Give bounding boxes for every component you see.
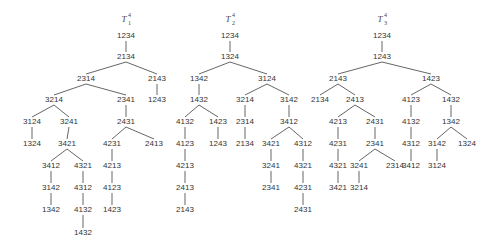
- tree-node: 4231: [329, 139, 347, 148]
- tree-node: 4312: [294, 139, 312, 148]
- tree-title-letter: T: [225, 14, 231, 24]
- tree-node: 2413: [145, 139, 163, 148]
- tree-node: 3142: [280, 95, 298, 104]
- tree-node: 2314: [77, 74, 95, 83]
- tree-node: 3421: [58, 139, 76, 148]
- tree-node: 4213: [329, 117, 347, 126]
- tree-node: 3241: [350, 161, 368, 170]
- tree-node: 2314: [236, 117, 254, 126]
- tree-title-subscript: 2: [232, 20, 235, 26]
- tree-edge: [126, 127, 154, 139]
- tree-title-superscript: 4: [384, 12, 387, 18]
- tree-edge: [86, 62, 126, 74]
- tree-node: 4132: [176, 117, 194, 126]
- tree-node: 1342: [190, 74, 208, 83]
- tree-node: 1342: [42, 205, 60, 214]
- tree-edge: [411, 84, 431, 95]
- tree-node: 1324: [458, 139, 476, 148]
- tree-edge: [245, 84, 267, 95]
- tree-node: 2341: [262, 183, 280, 192]
- tree-node: 1243: [373, 52, 391, 61]
- tree-node: 1243: [148, 95, 166, 104]
- tree-node: 1324: [23, 139, 41, 148]
- tree-node: 4132: [402, 117, 420, 126]
- tree-edge: [338, 105, 355, 117]
- tree-edge: [51, 149, 67, 161]
- tree-node: 3241: [60, 117, 78, 126]
- tree-title-subscript: 1: [128, 20, 131, 26]
- tree-node: 3412: [280, 117, 298, 126]
- tree-title: T42: [225, 12, 235, 26]
- tree-title-letter: T: [121, 14, 127, 24]
- tree-t3: T431234124321431423213424134123143242132…: [311, 12, 476, 192]
- tree-node: 4123: [176, 139, 194, 148]
- tree-node: 1432: [442, 95, 460, 104]
- tree-node: 1324: [221, 52, 239, 61]
- tree-node: 2134: [117, 52, 135, 61]
- tree-edge: [199, 62, 230, 74]
- tree-node: 4321: [294, 161, 312, 170]
- tree-edge: [355, 105, 375, 117]
- tree-node: 2143: [176, 205, 194, 214]
- tree-node: 3214: [45, 95, 63, 104]
- tree-edge: [437, 127, 451, 139]
- tree-nodes: 1234213423142143321423411243312432412431…: [23, 31, 166, 237]
- tree-node: 4231: [103, 139, 121, 148]
- tree-edge: [230, 62, 267, 74]
- tree-node: 3214: [236, 95, 254, 104]
- tree-node: 3142: [42, 183, 60, 192]
- tree-node: 1432: [74, 228, 92, 237]
- tree-node: 3124: [258, 74, 276, 83]
- tree-edge: [112, 127, 126, 139]
- tree-node: 2143: [148, 74, 166, 83]
- tree-node: 1342: [442, 117, 460, 126]
- tree-node: 1234: [373, 31, 391, 40]
- tree-node: 2134: [236, 139, 254, 148]
- tree-node: 2431: [294, 205, 312, 214]
- tree-node: 1243: [209, 139, 227, 148]
- tree-node: 1432: [190, 95, 208, 104]
- tree-edge: [271, 127, 289, 139]
- tree-node: 4312: [74, 183, 92, 192]
- tree-edges: [32, 41, 157, 228]
- tree-node: 4321: [74, 161, 92, 170]
- tree-node: 3142: [428, 139, 446, 148]
- tree-node: 2431: [117, 117, 135, 126]
- tree-edge: [382, 62, 431, 74]
- tree-node: 3412: [402, 161, 420, 170]
- tree-edge: [320, 84, 338, 95]
- tree-node: 4231: [294, 183, 312, 192]
- tree-node: 1234: [221, 31, 239, 40]
- tree-node: 3421: [329, 183, 347, 192]
- tree-edge: [338, 62, 382, 74]
- tree-node: 4312: [402, 139, 420, 148]
- tree-node: 3412: [42, 161, 60, 170]
- tree-edge: [289, 127, 303, 139]
- tree-nodes: 1234132413423124143232143142413214232314…: [176, 31, 312, 214]
- tree-node: 2413: [176, 183, 194, 192]
- tree-node: 1423: [209, 117, 227, 126]
- tree-edge: [451, 127, 467, 139]
- tree-node: 4213: [176, 161, 194, 170]
- tree-nodes: 1234124321431423213424134123143242132431…: [311, 31, 476, 192]
- tree-node: 2431: [366, 117, 384, 126]
- tree-edge: [86, 84, 126, 95]
- tree-node: 2341: [366, 139, 384, 148]
- tree-t2: T421234132413423124143232143142413214232…: [176, 12, 312, 214]
- tree-edge: [67, 127, 69, 139]
- tree-title: T43: [377, 12, 387, 26]
- tree-node: 3124: [428, 161, 446, 170]
- tree-node: 1423: [103, 205, 121, 214]
- tree-title: T41: [121, 12, 131, 26]
- tree-edge: [67, 149, 83, 161]
- tree-edge: [126, 62, 157, 74]
- tree-title-letter: T: [377, 14, 383, 24]
- tree-edge: [32, 105, 54, 117]
- tree-edge: [338, 84, 355, 95]
- tree-node: 2143: [329, 74, 347, 83]
- tree-node: 3241: [262, 161, 280, 170]
- tree-title-subscript: 3: [384, 20, 387, 26]
- tree-edge: [54, 105, 69, 117]
- tree-node: 4123: [103, 183, 121, 192]
- tree-edge: [359, 149, 375, 161]
